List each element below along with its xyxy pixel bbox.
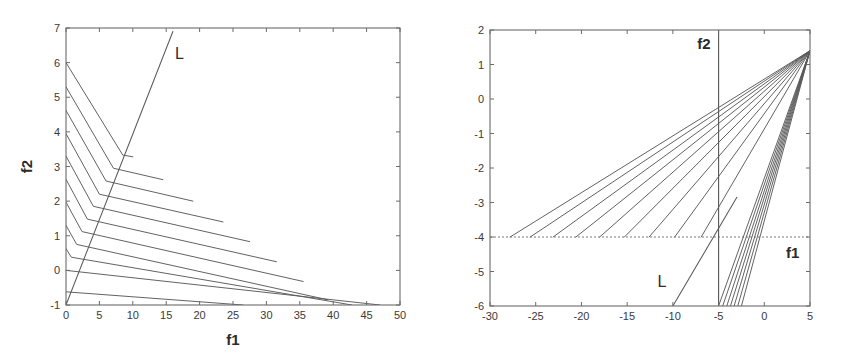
annotation-f1: f1 xyxy=(786,244,799,261)
y-tick-label: -5 xyxy=(474,266,484,278)
x-axis-title: f1 xyxy=(226,331,239,348)
y-axis-ticks: -6-5-4-3-2-1012 xyxy=(474,24,810,312)
annotation-L: L xyxy=(175,45,184,62)
y-tick-label: 4 xyxy=(54,126,60,138)
curve-contour-4 xyxy=(66,134,223,222)
x-tick-label: 30 xyxy=(260,309,272,321)
x-tick-label: 20 xyxy=(193,309,205,321)
y-tick-label: 2 xyxy=(478,24,484,36)
curve-contour-11 xyxy=(66,292,243,305)
curve-fan-8 xyxy=(675,51,810,237)
y-tick-label: -1 xyxy=(50,299,60,311)
curve-fan-3 xyxy=(553,51,810,237)
y-tick-label: 7 xyxy=(54,22,60,34)
curve-L xyxy=(673,197,737,306)
axes-frame xyxy=(66,28,400,305)
y-axis-title: f2 xyxy=(18,160,35,173)
y-tick-label: -6 xyxy=(474,300,484,312)
x-tick-label: 45 xyxy=(360,309,372,321)
left-plot-panel: 05101520253035404550-101234567Lf1f2 xyxy=(0,0,428,353)
curve-contour-10 xyxy=(66,270,380,305)
x-axis-ticks: -30-25-20-15-10-505 xyxy=(482,30,813,322)
curve-fan-2 xyxy=(530,51,810,237)
y-tick-label: -3 xyxy=(474,197,484,209)
annotation-L: L xyxy=(657,273,666,290)
x-tick-label: 0 xyxy=(761,310,767,322)
figure-root: 05101520253035404550-101234567Lf1f2 -30-… xyxy=(0,0,857,353)
y-tick-label: 0 xyxy=(478,93,484,105)
curve-fan-13 xyxy=(730,51,810,306)
curve-fan-12 xyxy=(727,51,810,306)
y-axis-ticks: -101234567 xyxy=(50,22,400,311)
y-tick-label: -1 xyxy=(474,128,484,140)
data-lines-group xyxy=(490,30,810,306)
x-tick-label: -25 xyxy=(528,310,544,322)
y-tick-label: -2 xyxy=(474,162,484,174)
x-tick-label: -5 xyxy=(714,310,724,322)
y-tick-label: 3 xyxy=(54,161,60,173)
curve-L xyxy=(66,31,173,305)
x-tick-label: -20 xyxy=(573,310,589,322)
y-tick-label: 6 xyxy=(54,57,60,69)
curve-contour-1 xyxy=(66,63,133,157)
curve-fan-10 xyxy=(719,51,810,306)
curve-contour-9 xyxy=(66,249,352,305)
data-lines-group xyxy=(66,31,380,305)
axes-frame xyxy=(490,30,810,306)
x-axis-ticks: 05101520253035404550 xyxy=(63,28,406,321)
x-tick-label: 5 xyxy=(96,309,102,321)
y-tick-label: 5 xyxy=(54,91,60,103)
y-tick-label: 2 xyxy=(54,195,60,207)
x-tick-label: 15 xyxy=(160,309,172,321)
x-tick-label: 5 xyxy=(807,310,813,322)
x-tick-label: 40 xyxy=(327,309,339,321)
curve-contour-2 xyxy=(66,87,163,180)
x-tick-label: -15 xyxy=(619,310,635,322)
x-tick-label: 0 xyxy=(63,309,69,321)
y-tick-label: -4 xyxy=(474,231,484,243)
y-tick-label: 1 xyxy=(478,59,484,71)
y-tick-label: 1 xyxy=(54,230,60,242)
annotation-f2: f2 xyxy=(697,35,710,52)
y-tick-label: 0 xyxy=(54,264,60,276)
right-plot-panel: -30-25-20-15-10-505-6-5-4-3-2-1012f2f1L xyxy=(428,0,857,353)
x-tick-label: -10 xyxy=(665,310,681,322)
curve-contour-5 xyxy=(66,156,250,242)
right-plot-canvas: -30-25-20-15-10-505-6-5-4-3-2-1012f2f1L xyxy=(428,0,857,353)
curve-fan-4 xyxy=(576,51,810,237)
x-tick-label: 10 xyxy=(127,309,139,321)
x-tick-label: -30 xyxy=(482,310,498,322)
left-plot-canvas: 05101520253035404550-101234567Lf1f2 xyxy=(0,0,428,353)
x-tick-label: 35 xyxy=(294,309,306,321)
x-tick-label: 50 xyxy=(394,309,406,321)
x-tick-label: 25 xyxy=(227,309,239,321)
